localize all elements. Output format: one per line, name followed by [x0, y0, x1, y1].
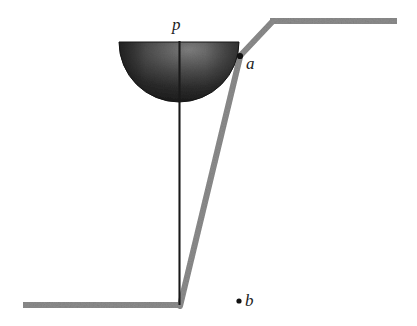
mechanics-diagram-canvas	[0, 0, 417, 326]
point-a-label: a	[246, 55, 255, 72]
point-b-marker	[236, 298, 241, 303]
figure-root: p a b	[0, 0, 417, 326]
pivot-label-p: p	[172, 16, 181, 33]
point-a-marker	[237, 53, 243, 59]
upper-diagonal-bar	[239, 22, 272, 57]
point-b-label: b	[245, 292, 254, 309]
